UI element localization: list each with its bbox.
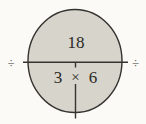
multiply-sign: ×: [71, 69, 79, 85]
divide-sign-left: ÷: [7, 55, 14, 70]
fact-family-circle-svg: 18 3 × 6 ÷ ÷: [0, 0, 146, 124]
divide-sign-right: ÷: [132, 55, 139, 70]
math-circle-diagram: 18 3 × 6 ÷ ÷: [0, 0, 146, 124]
factor-left-value: 3: [54, 68, 63, 87]
product-value: 18: [68, 33, 85, 52]
factor-right-value: 6: [89, 68, 98, 87]
